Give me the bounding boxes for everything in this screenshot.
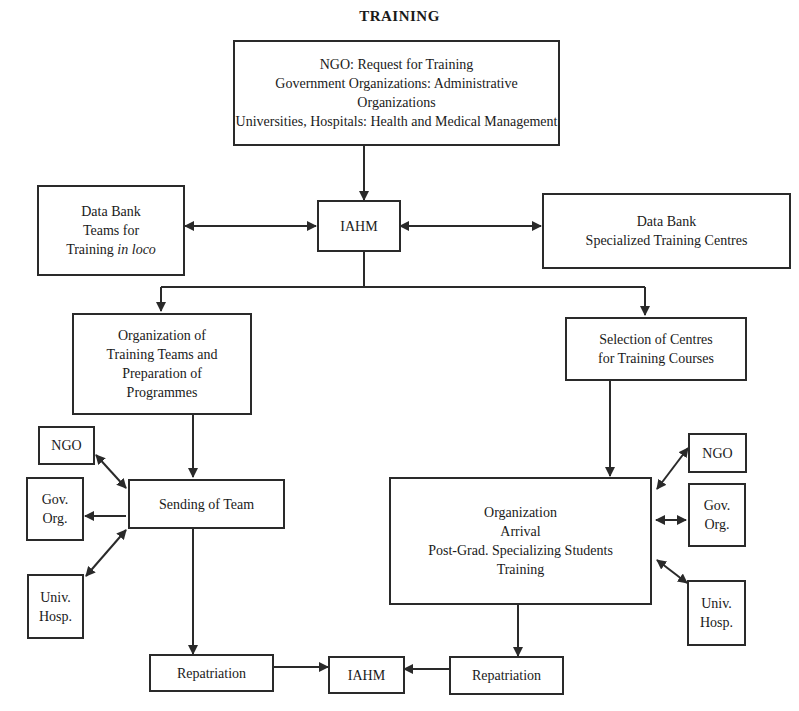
selection-centres-line-2: for Training Courses <box>598 349 714 368</box>
databank-teams-box: Data Bank Teams for Training in loco <box>37 185 185 276</box>
request-line-1: NGO: Request for Training <box>235 55 558 74</box>
org-teams-line-1: Organization of <box>106 326 217 345</box>
org-teams-box: Organization of Training Teams and Prepa… <box>72 313 252 415</box>
right-ngo-label: NGO <box>702 444 732 463</box>
org-arrival-line-3: Post-Grad. Specializing Students <box>428 541 613 560</box>
left-gov-box: Gov. Org. <box>26 477 84 541</box>
request-line-2: Government Organizations: Administrative… <box>235 74 558 112</box>
iahm-top-label: IAHM <box>340 217 377 236</box>
iahm-bottom-box: IAHM <box>328 656 405 694</box>
left-univ-box: Univ. Hosp. <box>27 574 84 639</box>
left-ngo-label: NGO <box>51 436 81 455</box>
databank-centres-line-1: Data Bank <box>586 212 748 231</box>
sending-team-label: Sending of Team <box>159 495 254 514</box>
right-univ-box: Univ. Hosp. <box>687 580 746 646</box>
org-arrival-line-1: Organization <box>428 503 613 522</box>
left-gov-line-1: Gov. <box>42 490 69 509</box>
arrow-right-ngo <box>657 448 688 489</box>
org-arrival-line-2: Arrival <box>428 522 613 541</box>
request-box: NGO: Request for Training Government Org… <box>233 40 560 146</box>
sending-team-box: Sending of Team <box>128 479 285 529</box>
request-line-3: Universities, Hospitals: Health and Medi… <box>235 112 558 131</box>
databank-teams-line-3: Training <box>66 242 117 257</box>
left-univ-line-1: Univ. <box>39 588 72 607</box>
org-teams-line-2: Training Teams and <box>106 345 217 364</box>
right-univ-line-2: Hosp. <box>700 613 733 632</box>
right-ngo-box: NGO <box>688 433 747 473</box>
arrow-left-ngo <box>96 455 126 488</box>
databank-teams-in-loco: in loco <box>117 242 156 257</box>
repatriation-left-label: Repatriation <box>177 664 246 683</box>
right-gov-line-1: Gov. <box>704 496 731 515</box>
iahm-bottom-label: IAHM <box>348 666 385 685</box>
databank-centres-box: Data Bank Specialized Training Centres <box>542 193 791 269</box>
selection-centres-box: Selection of Centres for Training Course… <box>565 317 747 381</box>
right-gov-line-2: Org. <box>704 515 731 534</box>
left-univ-line-2: Hosp. <box>39 607 72 626</box>
arrow-right-univ <box>657 560 687 583</box>
org-arrival-box: Organization Arrival Post-Grad. Speciali… <box>389 477 652 605</box>
right-gov-box: Gov. Org. <box>688 483 746 547</box>
repatriation-right-box: Repatriation <box>449 656 564 695</box>
selection-centres-line-1: Selection of Centres <box>598 330 714 349</box>
org-teams-line-3: Preparation of <box>106 364 217 383</box>
left-ngo-box: NGO <box>38 426 95 465</box>
databank-teams-line-2: Teams for <box>66 221 156 240</box>
repatriation-right-label: Repatriation <box>472 666 541 685</box>
arrow-left-univ <box>86 530 126 576</box>
repatriation-left-box: Repatriation <box>149 654 274 692</box>
databank-centres-line-2: Specialized Training Centres <box>586 231 748 250</box>
iahm-top-box: IAHM <box>317 200 401 252</box>
databank-teams-line-1: Data Bank <box>66 202 156 221</box>
right-univ-line-1: Univ. <box>700 594 733 613</box>
left-gov-line-2: Org. <box>42 509 69 528</box>
org-arrival-line-4: Training <box>428 560 613 579</box>
org-teams-line-4: Programmes <box>106 383 217 402</box>
